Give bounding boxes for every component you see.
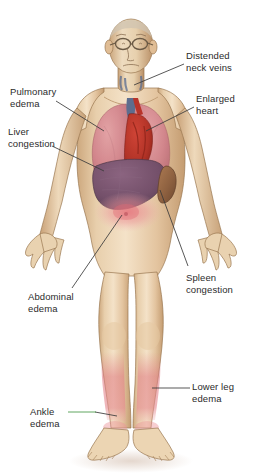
right-leg-edema [136, 352, 161, 422]
illustration-canvas: Distended neck veins Enlarged heart Pulm… [0, 0, 262, 474]
label-distended-neck-veins: Distended neck veins [186, 50, 232, 73]
label-liver-congestion: Liver congestion [8, 126, 55, 149]
floor-shadow [69, 449, 193, 473]
label-spleen-congestion: Spleen congestion [186, 272, 233, 295]
label-pulmonary-edema: Pulmonary edema [10, 86, 56, 109]
ear-left [105, 40, 113, 54]
label-lower-leg-edema: Lower leg edema [192, 381, 234, 404]
ear-right [149, 40, 157, 54]
right-hand [198, 233, 237, 270]
left-leg-edema [101, 352, 126, 422]
left-hand [25, 233, 64, 270]
navel [124, 212, 128, 216]
label-abdominal-edema: Abdominal edema [28, 291, 74, 314]
label-enlarged-heart: Enlarged heart [196, 93, 235, 116]
label-ankle-edema: Ankle edema [30, 406, 60, 429]
knee-left [102, 322, 126, 350]
knee-right [136, 322, 160, 350]
